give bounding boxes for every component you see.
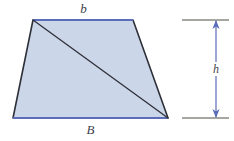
geometry-figure: b B h	[0, 0, 234, 141]
bottom-base-label: B	[0, 123, 181, 136]
trapezoid-diagram-svg	[0, 0, 234, 141]
height-label: h	[205, 62, 227, 76]
top-base-label: b	[0, 2, 167, 15]
trapezoid-fill	[13, 20, 168, 118]
